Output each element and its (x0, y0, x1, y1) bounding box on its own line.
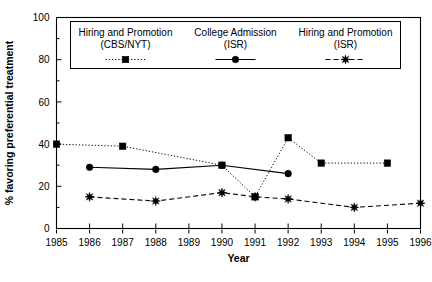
data-point-2-5 (350, 203, 359, 212)
legend-label-line1-0: Hiring and Promotion (79, 27, 173, 38)
x-tick-label: 1993 (310, 237, 333, 248)
x-tick-label: 1994 (343, 237, 366, 248)
x-axis-title: Year (227, 252, 249, 264)
series-line-1 (90, 165, 289, 173)
legend-label-line2-0: (CBS/NYT) (101, 39, 151, 50)
data-point-0-0 (53, 141, 59, 147)
x-tick-label: 1991 (244, 237, 267, 248)
legend-sample-marker-2 (341, 55, 350, 64)
legend-label-line2-1: (ISR) (224, 39, 247, 50)
x-tick-label: 1988 (145, 237, 168, 248)
data-point-0-1 (119, 143, 125, 149)
line-chart: 0204060801001985198619871988198919901991… (0, 0, 432, 282)
y-tick-label: 100 (33, 12, 50, 23)
x-tick-label: 1990 (211, 237, 234, 248)
x-tick-label: 1987 (112, 237, 135, 248)
x-tick-label: 1986 (78, 237, 101, 248)
legend-sample-marker-0 (122, 56, 128, 62)
y-tick-label: 40 (38, 139, 50, 150)
y-tick-label: 80 (38, 54, 50, 65)
x-tick-label: 1995 (376, 237, 399, 248)
y-tick-label: 20 (38, 181, 50, 192)
data-point-1-0 (86, 164, 93, 171)
data-point-2-3 (250, 192, 259, 201)
data-point-0-5 (318, 160, 324, 166)
x-tick-label: 1996 (409, 237, 432, 248)
series-2 (85, 188, 425, 212)
legend-label-line1-2: Hiring and Promotion (299, 27, 393, 38)
series-1 (86, 162, 291, 177)
legend-label-line2-2: (ISR) (334, 39, 357, 50)
legend-sample-marker-1 (232, 56, 239, 63)
x-tick-label: 1989 (178, 237, 201, 248)
data-point-2-2 (217, 188, 226, 197)
data-point-2-0 (85, 192, 94, 201)
data-point-1-2 (219, 162, 226, 169)
chart-figure: 0204060801001985198619871988198919901991… (0, 0, 432, 282)
data-point-2-1 (151, 196, 160, 205)
y-tick-label: 0 (44, 223, 50, 234)
y-tick-label: 60 (38, 97, 50, 108)
chart-legend: Hiring and Promotion(CBS/NYT)College Adm… (71, 22, 401, 69)
data-point-1-1 (152, 166, 159, 173)
y-axis-title: % favoring preferential treatment (3, 40, 15, 205)
data-point-1-3 (285, 170, 292, 177)
x-tick-label: 1985 (45, 237, 68, 248)
x-tick-label: 1992 (277, 237, 300, 248)
data-point-2-6 (416, 199, 425, 208)
data-point-2-4 (284, 194, 293, 203)
data-point-0-4 (285, 135, 291, 141)
legend-label-line1-1: College Admission (194, 27, 276, 38)
data-point-0-6 (384, 160, 390, 166)
